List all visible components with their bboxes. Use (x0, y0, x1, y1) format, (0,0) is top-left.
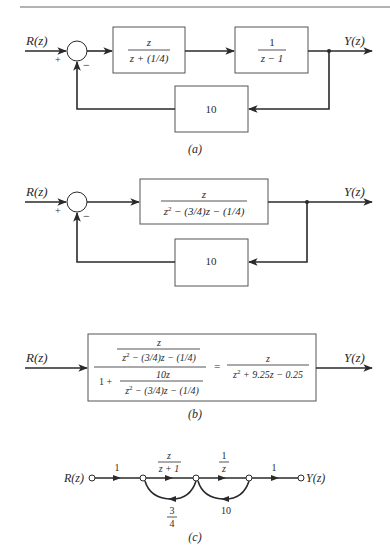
forward-block (140, 179, 268, 224)
feedback-gain-3-4-num: 3 (170, 505, 175, 516)
branch-arrow-icon (218, 475, 226, 481)
gain-z-num: z (166, 450, 171, 461)
figure-a-block-diagram: R(z) + − z z + (1/4) 1 z − 1 Y(z) 10 (a) (25, 27, 372, 156)
block1-numerator: z (146, 36, 152, 48)
plus-sign: + (55, 54, 61, 65)
feedback-gain: 10 (206, 103, 218, 115)
plus-sign: + (55, 205, 61, 216)
output-label-y: Y(z) (344, 350, 365, 365)
bottom-numerator: 10z (156, 369, 170, 380)
top-denominator: z2 − (3/4)z − (1/4) (121, 351, 196, 364)
branch-arrow-icon (113, 475, 121, 481)
feedback-arc-n2-to-n1 (145, 481, 196, 499)
minus-sign: − (83, 58, 90, 72)
closed-loop-block (88, 334, 316, 401)
feedback-gain-3-4-den: 4 (170, 518, 175, 529)
branch-arrow-icon (168, 496, 176, 502)
caption-c: (c) (188, 530, 201, 544)
figure-b-block-diagram: R(z) + − z z2 − (3/4)z − (1/4) Y(z) 10 (25, 179, 372, 286)
bottom-denominator: z2 − (3/4)z − (1/4) (124, 384, 199, 397)
input-label-r: R(z) (25, 33, 48, 48)
output-label-y: Y(z) (306, 471, 325, 485)
block2-denominator: z − 1 (260, 52, 284, 64)
gain-1-out: 1 (272, 462, 277, 473)
branch-arrow-icon (165, 475, 173, 481)
branch-arrow-icon (221, 496, 229, 502)
node-2 (193, 475, 199, 481)
figure-canvas: R(z) + − z z + (1/4) 1 z − 1 Y(z) 10 (a)… (0, 0, 390, 551)
gain-1z-num: 1 (222, 450, 227, 461)
equals-sign: = (214, 360, 220, 372)
block2-numerator: 1 (269, 36, 275, 48)
input-label-r: R(z) (25, 184, 48, 199)
output-label-y: Y(z) (344, 33, 365, 48)
node-1 (140, 475, 146, 481)
figure-b-reduced-block: R(z) z z2 − (3/4)z − (1/4) 1 + 10z z2 − … (25, 334, 372, 421)
gain-z-den: z + 1 (158, 463, 180, 474)
gain-1z-den: z (221, 463, 226, 474)
forward-denominator: z2 − (3/4)z − (1/4) (163, 205, 245, 218)
gain-1: 1 (115, 462, 120, 473)
feedback-gain-10: 10 (221, 505, 231, 516)
node-r (89, 475, 95, 481)
node-3 (246, 475, 252, 481)
figure-c-signal-flow-graph: R(z) 1 z z + 1 1 z 1 3 4 10 Y(z) (63, 450, 325, 544)
output-label-y: Y(z) (344, 184, 365, 199)
block1-denominator: z + (1/4) (129, 52, 169, 65)
one-plus: 1 + (99, 376, 113, 387)
result-numerator: z (265, 353, 270, 364)
minus-sign: − (83, 209, 90, 223)
branch-arrow-icon (271, 475, 279, 481)
node-y (298, 475, 304, 481)
feedback-arc-n3-to-n2 (198, 481, 249, 499)
input-label-r: R(z) (25, 350, 48, 365)
forward-numerator: z (201, 188, 207, 200)
caption-b: (b) (188, 407, 202, 421)
input-label-r: R(z) (63, 471, 84, 485)
feedback-gain: 10 (206, 255, 218, 267)
caption-a: (a) (188, 142, 202, 156)
result-denominator: z2 + 9.25z − 0.25 (232, 368, 303, 380)
top-numerator: z (156, 337, 161, 348)
